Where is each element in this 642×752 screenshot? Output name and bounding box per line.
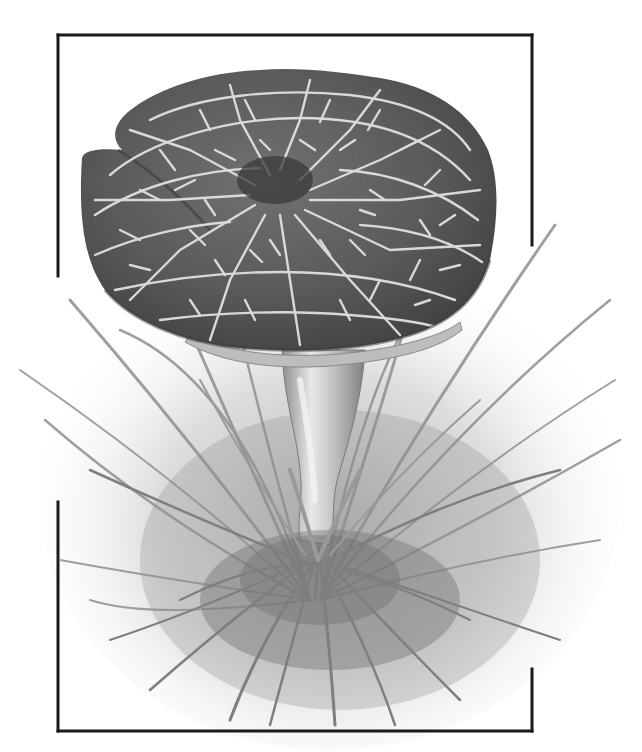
mushroom-illustration	[0, 0, 642, 752]
mushroom-cap	[81, 69, 497, 350]
cap-center-depression	[237, 156, 313, 204]
